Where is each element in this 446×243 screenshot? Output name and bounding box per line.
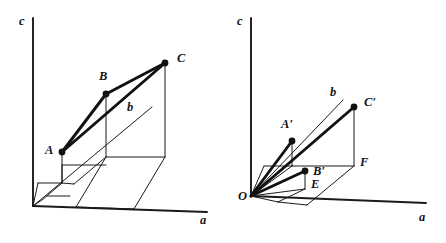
right-panel-group	[251, 18, 426, 205]
right-point-B-prime-dot	[302, 168, 309, 175]
left-point-C-dot	[162, 60, 169, 67]
right-point-C-prime-dot	[351, 104, 358, 111]
right-label-O: O	[238, 190, 247, 203]
right-axis-label-c: c	[237, 15, 243, 28]
left-label-A: A	[45, 144, 54, 157]
left-axis-label-c: c	[19, 15, 25, 28]
right-b-axis	[251, 100, 343, 196]
left-C-base-diag	[134, 157, 165, 209]
left-A-base-edge-1	[42, 183, 62, 200]
left-axis-label-a: a	[200, 214, 206, 227]
right-label-A-prime: A′	[281, 118, 293, 131]
figure-canvas: c a b A B C c a b O A′ B′ C′ E F	[0, 0, 446, 243]
right-base-bottom-edge	[278, 202, 307, 205]
left-label-C: C	[177, 52, 186, 65]
left-label-B: B	[99, 70, 108, 83]
right-vector-OC-prime	[251, 107, 354, 196]
right-axis-label-b: b	[330, 86, 336, 99]
right-label-E: E	[311, 178, 320, 191]
right-label-B-prime: B′	[313, 165, 325, 178]
right-label-F: F	[360, 156, 369, 169]
left-point-B-dot	[103, 91, 110, 98]
right-point-A-prime-dot	[289, 138, 296, 145]
diagram-svg	[0, 0, 446, 243]
left-panel-group	[33, 18, 207, 212]
left-vector-AB	[62, 94, 106, 152]
right-label-C-prime: C′	[364, 96, 376, 109]
right-axis-label-a: a	[419, 211, 425, 224]
left-B-base-link	[62, 183, 74, 184]
left-point-A-dot	[59, 149, 66, 156]
left-B-base-edge	[74, 157, 106, 184]
left-axis-label-b: b	[127, 101, 133, 114]
